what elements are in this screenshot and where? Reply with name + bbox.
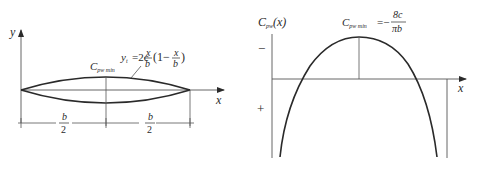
svg-text:x: x (173, 47, 179, 58)
svg-text:yt: yt (120, 51, 128, 64)
profile-upper-curve (21, 77, 190, 90)
plus-sign: + (257, 101, 264, 116)
dimension-line (18, 118, 194, 128)
diagram-canvas: y x Cpw min yt =2c x b (1− x b ) (0, 0, 479, 170)
svg-text:2: 2 (147, 124, 152, 135)
svg-text:8c: 8c (393, 9, 403, 20)
x-axis-label: x (457, 81, 464, 95)
equation-leader (131, 66, 141, 78)
svg-text:): ) (181, 50, 185, 64)
profile-lower-curve (21, 90, 190, 103)
svg-text:(1−: (1− (153, 50, 170, 64)
svg-text:=−: =− (377, 16, 389, 28)
x-axis-label: x (215, 93, 222, 107)
svg-text:b: b (145, 58, 150, 69)
svg-text:Cpw min: Cpw min (342, 16, 367, 29)
svg-text:πb: πb (392, 23, 402, 34)
right-panel: Cpw(x) x − + Cpw min =− 8c πb (257, 9, 466, 158)
svg-text:x: x (145, 47, 151, 58)
left-panel: y x Cpw min yt =2c x b (1− x b ) (9, 25, 224, 135)
y-axis-label: y (9, 25, 16, 39)
svg-text:2: 2 (61, 124, 66, 135)
svg-text:b: b (148, 111, 153, 122)
cpw-curve (280, 37, 437, 157)
dimension-half-right: b 2 (145, 111, 155, 135)
minus-sign: − (258, 41, 265, 56)
svg-text:b: b (62, 111, 67, 122)
dimension-half-left: b 2 (59, 111, 69, 135)
cpw-axis-label: Cpw(x) (258, 15, 286, 29)
svg-text:b: b (173, 58, 178, 69)
cpw-min-equation: Cpw min =− 8c πb (342, 9, 406, 34)
cpw-min-label: Cpw min (90, 60, 115, 73)
thickness-equation: yt =2c x b (1− x b ) (120, 47, 185, 69)
